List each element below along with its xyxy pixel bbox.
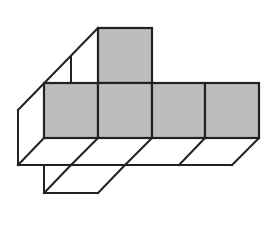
cube-net-diagram bbox=[0, 0, 266, 229]
edge-slant-2 bbox=[125, 138, 152, 165]
shaded-square-row-3 bbox=[152, 83, 205, 138]
diagram-canvas bbox=[0, 0, 266, 229]
edge-slant-1 bbox=[71, 138, 98, 165]
edge-slant-3 bbox=[179, 138, 205, 165]
edge-lower-slant-right bbox=[98, 165, 125, 193]
shaded-square-row-2 bbox=[98, 83, 152, 138]
shaded-square-top bbox=[98, 28, 152, 83]
shaded-square-row-4 bbox=[205, 83, 259, 138]
edge-slant-4 bbox=[232, 138, 259, 165]
edge-slant-0 bbox=[18, 138, 44, 165]
shaded-square-row-1 bbox=[44, 83, 98, 138]
edge-lower-slant-left bbox=[44, 165, 71, 193]
shaded-squares bbox=[44, 28, 259, 138]
